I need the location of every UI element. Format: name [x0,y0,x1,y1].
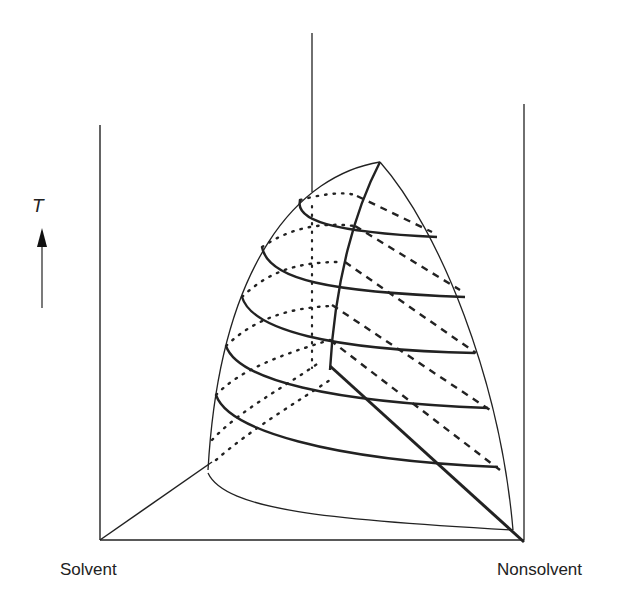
dashed-back-contours [330,196,500,470]
temperature-arrow-icon [37,228,47,308]
solid-front-contours [216,200,498,467]
dotted-back-contours [212,193,357,460]
phase-diagram [0,0,638,609]
